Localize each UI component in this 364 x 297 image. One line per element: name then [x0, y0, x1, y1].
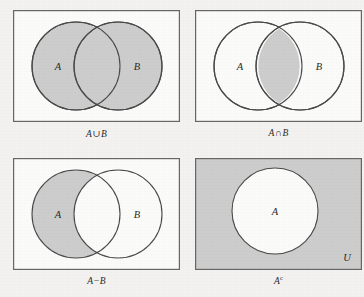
label-set-b: B	[134, 209, 141, 220]
caption-intersection: A∩B	[195, 128, 362, 138]
panel-intersection: A B A∩B	[195, 10, 362, 143]
label-set-a: A	[54, 209, 62, 220]
caption-complement: Ac	[195, 276, 362, 286]
caption-union-operator: ∪	[92, 129, 101, 139]
label-set-a: A	[236, 61, 244, 72]
caption-complement-superscript: c	[280, 274, 283, 281]
union-diagram: A B	[13, 10, 180, 122]
caption-union: A∪B	[13, 128, 180, 139]
panel-complement: A U Ac	[195, 158, 362, 291]
venn-figure: A B A∪B A B A∩B	[0, 0, 364, 297]
caption-union-left: A	[86, 129, 92, 139]
intersection-diagram: A B	[195, 10, 362, 122]
caption-intersection-operator: ∩	[274, 128, 282, 138]
difference-diagram: A B	[13, 158, 180, 270]
panel-union: A B A∪B	[13, 10, 180, 143]
label-set-b: B	[134, 61, 141, 72]
panel-difference: A B A−B	[13, 158, 180, 291]
label-set-a: A	[271, 206, 279, 217]
label-set-b: B	[316, 61, 323, 72]
caption-difference-right: B	[100, 276, 106, 286]
caption-intersection-right: B	[283, 128, 289, 138]
complement-diagram: A U	[195, 158, 362, 270]
caption-union-right: B	[101, 129, 107, 139]
caption-difference: A−B	[13, 276, 180, 286]
label-set-a: A	[54, 61, 62, 72]
